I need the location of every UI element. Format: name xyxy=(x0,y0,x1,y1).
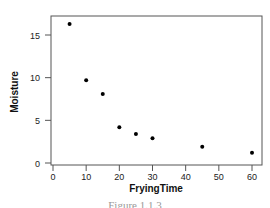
y-tick-label: 10 xyxy=(30,73,40,83)
x-tick-label: 0 xyxy=(50,172,55,182)
x-tick-label: 10 xyxy=(81,172,91,182)
x-tick-label: 30 xyxy=(147,172,157,182)
x-axis-label: FryingTime xyxy=(129,183,183,194)
y-axis-label: Moisture xyxy=(9,71,20,113)
x-tick-label: 40 xyxy=(181,172,191,182)
figure-caption: Figure 1.1.3 xyxy=(0,199,270,208)
data-point xyxy=(151,136,155,140)
x-tick-label: 50 xyxy=(214,172,224,182)
y-tick-label: 5 xyxy=(35,116,40,126)
plot-frame xyxy=(51,16,262,165)
data-point xyxy=(117,125,121,129)
y-tick-label: 0 xyxy=(35,159,40,169)
data-point xyxy=(68,22,72,26)
data-point xyxy=(134,132,138,136)
y-axis: 051015 xyxy=(30,31,51,169)
data-point xyxy=(101,92,105,96)
data-point xyxy=(200,145,204,149)
x-tick-label: 20 xyxy=(114,172,124,182)
data-points xyxy=(68,22,254,155)
data-point xyxy=(250,151,254,155)
scatter-chart: 051015 0102030405060 Moisture FryingTime xyxy=(0,0,270,208)
y-tick-label: 15 xyxy=(30,31,40,41)
data-point xyxy=(84,78,88,82)
x-axis: 0102030405060 xyxy=(50,165,257,182)
x-tick-label: 60 xyxy=(247,172,257,182)
